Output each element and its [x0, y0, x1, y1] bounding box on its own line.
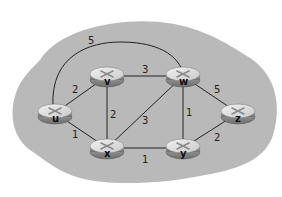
node-label-y: y [180, 148, 187, 159]
router-y[interactable]: y [166, 139, 200, 159]
network-diagram: 2 1 5 3 2 3 1 5 1 2 u v [0, 0, 282, 197]
node-label-w: w [179, 76, 188, 87]
router-z[interactable]: z [221, 104, 255, 124]
weight-v-x: 2 [110, 109, 116, 120]
weight-u-w: 5 [88, 35, 94, 46]
router-v[interactable]: v [90, 67, 124, 87]
router-u[interactable]: u [38, 104, 72, 124]
router-w[interactable]: w [166, 67, 200, 87]
weight-x-y: 1 [142, 154, 148, 165]
node-label-z: z [235, 113, 241, 124]
weight-u-v: 2 [72, 84, 78, 95]
node-label-u: u [52, 113, 59, 124]
node-label-v: v [104, 76, 111, 87]
weight-y-z: 2 [214, 132, 220, 143]
weight-v-w: 3 [142, 64, 148, 75]
weight-w-y: 1 [186, 107, 192, 118]
weight-u-x: 1 [72, 129, 78, 140]
weight-x-w: 3 [142, 115, 148, 126]
router-x[interactable]: x [90, 139, 124, 159]
weight-w-z: 5 [214, 84, 220, 95]
node-label-x: x [104, 148, 111, 159]
